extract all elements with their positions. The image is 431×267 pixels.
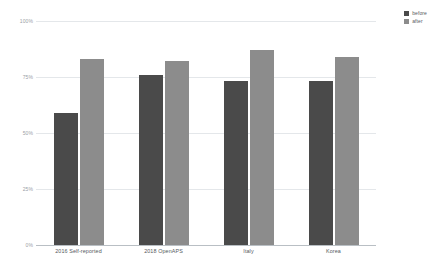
bar-before[interactable] <box>139 75 163 245</box>
legend-label-after: after <box>412 19 423 24</box>
bar-after[interactable] <box>335 57 359 245</box>
bar-before[interactable] <box>309 81 333 245</box>
x-tick-label: 2016 Self-reported <box>55 248 101 254</box>
bar-group <box>121 21 206 245</box>
bar-after[interactable] <box>80 59 104 245</box>
bars-layer <box>36 21 376 245</box>
x-tick-label: Italy <box>243 248 253 254</box>
legend-item-before[interactable]: before <box>404 11 427 16</box>
gridline-0pct <box>36 245 376 246</box>
y-tick-label: 50% <box>23 130 33 136</box>
legend-swatch-before <box>404 11 409 16</box>
legend-swatch-after <box>404 19 409 24</box>
bar-after[interactable] <box>165 61 189 245</box>
y-tick-label: 75% <box>23 74 33 80</box>
bar-group <box>291 21 376 245</box>
bar-before[interactable] <box>54 113 78 245</box>
chart-legend: before after <box>404 11 427 24</box>
x-axis: 2016 Self-reported2018 OpenAPSItalyKorea <box>36 248 376 262</box>
bar-group <box>36 21 121 245</box>
y-tick-label: 0% <box>26 242 33 248</box>
bar-group <box>206 21 291 245</box>
bar-after[interactable] <box>250 50 274 245</box>
y-tick-label: 100% <box>20 18 33 24</box>
bar-before[interactable] <box>224 81 248 245</box>
legend-label-before: before <box>412 11 427 16</box>
legend-item-after[interactable]: after <box>404 19 423 24</box>
bar-chart: before after 100%75%50%25%0% 2016 Self-r… <box>0 0 431 267</box>
x-tick-label: Korea <box>326 248 341 254</box>
x-tick-label: 2018 OpenAPS <box>144 248 183 254</box>
y-axis: 100%75%50%25%0% <box>0 21 33 245</box>
plot-area <box>36 21 376 245</box>
y-tick-label: 25% <box>23 186 33 192</box>
